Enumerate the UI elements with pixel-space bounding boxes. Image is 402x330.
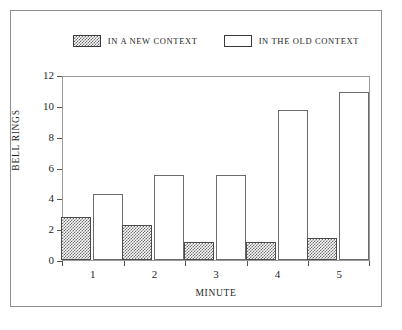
y-tick-label-0: 0 <box>49 254 55 267</box>
y-tick-label-10: 10 <box>43 100 54 113</box>
x-axis-title: Minute <box>62 288 370 298</box>
x-tick-label-1: 1 <box>81 268 105 280</box>
x-tick-mark <box>185 261 186 266</box>
legend-label-new-context: In a New Context <box>108 37 198 46</box>
plot-area <box>62 76 370 261</box>
bar-new-context-minute-3 <box>184 242 214 261</box>
bar-new-context-minute-1 <box>61 217 91 260</box>
x-tick-mark <box>308 261 309 266</box>
legend-label-old-context: In the Old Context <box>259 37 360 46</box>
x-tick-mark <box>247 261 248 266</box>
y-axis: 12 10 8 6 4 2 0 <box>0 76 62 261</box>
y-tick-label-8: 8 <box>49 131 55 144</box>
y-axis-title: Bell Rings <box>11 100 21 180</box>
x-tick-label-4: 4 <box>266 268 290 280</box>
y-tick-label-4: 4 <box>49 192 55 205</box>
bar-new-context-minute-5 <box>307 238 337 260</box>
x-tick-mark <box>124 261 125 266</box>
bar-old-context-minute-3 <box>216 175 246 260</box>
bar-old-context-minute-1 <box>93 194 123 260</box>
chart-legend: In a New Context In the Old Context <box>62 30 370 52</box>
bars-container <box>63 77 369 260</box>
y-tick-10: 10 <box>0 107 62 108</box>
x-tick-mark <box>62 261 63 266</box>
bar-old-context-minute-5 <box>339 92 369 260</box>
legend-swatch-open-icon <box>224 35 252 47</box>
y-tick-6: 6 <box>0 169 62 170</box>
y-tick-0: 0 <box>0 261 62 262</box>
figure-canvas: In a New Context In the Old Context 12 1… <box>0 0 402 330</box>
bar-old-context-minute-2 <box>154 175 184 260</box>
x-tick-mark <box>369 261 370 266</box>
bar-new-context-minute-4 <box>246 242 276 261</box>
y-tick-label-12: 12 <box>43 69 54 82</box>
y-tick-12: 12 <box>0 76 62 77</box>
y-tick-2: 2 <box>0 230 62 231</box>
y-tick-4: 4 <box>0 199 62 200</box>
y-tick-8: 8 <box>0 138 62 139</box>
y-tick-label-2: 2 <box>49 223 55 236</box>
x-tick-label-2: 2 <box>142 268 166 280</box>
x-tick-label-3: 3 <box>204 268 228 280</box>
legend-entry-old-context: In the Old Context <box>224 35 360 47</box>
y-tick-label-6: 6 <box>49 162 55 175</box>
bar-old-context-minute-4 <box>278 110 308 260</box>
legend-swatch-hatched-icon <box>73 35 101 47</box>
x-tick-label-5: 5 <box>327 268 351 280</box>
legend-entry-new-context: In a New Context <box>73 35 198 47</box>
bar-new-context-minute-2 <box>122 225 152 260</box>
